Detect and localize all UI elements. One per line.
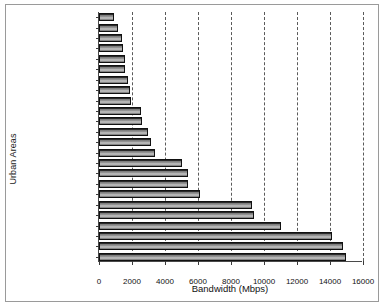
bandwidth-bar-chart: Urban Areas 0200040006000800010000120001…	[0, 0, 384, 307]
bar-row: Minneapolis-St. Paul	[99, 54, 362, 64]
bar-row: Boston	[99, 127, 362, 137]
bar	[99, 65, 125, 73]
bar-row: Houston	[99, 137, 362, 147]
bar-row: Denver	[99, 189, 362, 199]
x-tick-mark	[363, 261, 364, 265]
bar-row: Cleveland	[99, 147, 362, 157]
bar-row: Austin	[99, 43, 362, 53]
bar	[99, 13, 114, 21]
bar-row: New York	[99, 210, 362, 220]
bar	[99, 169, 188, 177]
y-axis-title: Urban Areas	[8, 59, 22, 259]
bar	[99, 34, 122, 42]
bar	[99, 190, 200, 198]
bar-row: Orlando	[99, 12, 362, 22]
bar-row: Seattle	[99, 168, 362, 178]
bar	[99, 149, 155, 157]
bar	[99, 86, 130, 94]
bar-row: Chicago	[99, 241, 362, 251]
bar	[99, 44, 123, 52]
bar	[99, 253, 346, 261]
bar	[99, 211, 254, 219]
bar	[99, 201, 252, 209]
bar	[99, 138, 151, 146]
plot-area: 0200040006000800010000120001400016000Orl…	[98, 12, 362, 262]
bar-row: San Diego	[99, 33, 362, 43]
x-axis-title: Bandwidth (Mbps)	[98, 283, 362, 294]
bar	[99, 76, 128, 84]
bar-row: Detroit	[99, 22, 362, 32]
bar-row: Miami	[99, 64, 362, 74]
bar	[99, 128, 148, 136]
bar	[99, 180, 188, 188]
bar	[99, 242, 343, 250]
bar	[99, 97, 131, 105]
bar	[99, 222, 281, 230]
bar-row: Pittsburgh	[99, 95, 362, 105]
bar-row: Philadelphia	[99, 158, 362, 168]
bar-row: Dallas-Fort Worth	[99, 220, 362, 230]
bar-row: Washington	[99, 231, 362, 241]
bar	[99, 24, 118, 32]
x-gridline	[363, 12, 364, 261]
bar-row: Phoenix	[99, 106, 362, 116]
bar-row: Atlanta	[99, 179, 362, 189]
bar	[99, 107, 141, 115]
bar	[99, 55, 125, 63]
bar	[99, 159, 182, 167]
bar-row: Columbus	[99, 75, 362, 85]
bar-row: San Francisco	[99, 252, 362, 262]
bar-row: Kansas City	[99, 116, 362, 126]
bar-row: St. Louis	[99, 85, 362, 95]
bar	[99, 232, 332, 240]
bar	[99, 117, 142, 125]
bar-row: Los Angeles	[99, 200, 362, 210]
